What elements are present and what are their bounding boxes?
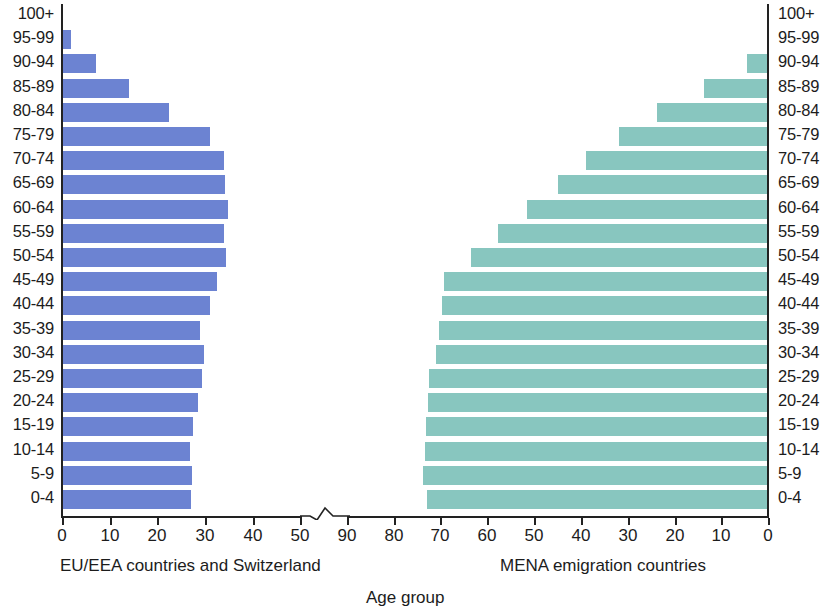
age-label-20-24: 20-24 bbox=[13, 390, 54, 410]
axis-break-icon bbox=[300, 506, 350, 520]
age-label-10-14: 10-14 bbox=[778, 439, 819, 459]
x-axis-right-tick-label: 20 bbox=[655, 526, 695, 546]
bar-right-60-64 bbox=[527, 200, 768, 219]
age-label-0-4: 0-4 bbox=[31, 487, 54, 507]
x-axis-right-tick bbox=[487, 518, 489, 525]
population-pyramid-chart: 0-45-910-1415-1920-2425-2930-3435-3940-4… bbox=[0, 0, 830, 614]
bar-right-45-49 bbox=[444, 272, 768, 291]
age-label-60-64: 60-64 bbox=[778, 197, 819, 217]
bar-left-20-24 bbox=[62, 393, 198, 412]
bar-right-30-34 bbox=[436, 345, 768, 364]
x-axis-left-tick bbox=[300, 518, 302, 525]
bar-left-75-79 bbox=[62, 127, 210, 146]
age-label-95-99: 95-99 bbox=[13, 27, 54, 47]
x-axis-right-tick bbox=[534, 518, 536, 525]
age-label-100plus: 100+ bbox=[18, 3, 54, 23]
bar-left-60-64 bbox=[62, 200, 228, 219]
x-axis-left-tick bbox=[253, 518, 255, 525]
age-label-20-24: 20-24 bbox=[778, 390, 819, 410]
bar-right-50-54 bbox=[471, 248, 768, 267]
x-axis-right-tick-label: 10 bbox=[701, 526, 741, 546]
x-axis-left-tick-label: 20 bbox=[137, 526, 177, 546]
age-label-10-14: 10-14 bbox=[13, 439, 54, 459]
x-axis-left-tick-label: 0 bbox=[42, 526, 82, 546]
right-bars-mena bbox=[428, 0, 768, 516]
axis-title: Age group bbox=[366, 588, 444, 608]
caption-left: EU/EEA countries and Switzerland bbox=[60, 556, 321, 576]
age-label-100plus: 100+ bbox=[778, 3, 814, 23]
age-label-45-49: 45-49 bbox=[13, 269, 54, 289]
y-axis-right bbox=[767, 4, 769, 516]
y-axis-left bbox=[61, 4, 63, 516]
x-axis-right-tick-label: 50 bbox=[514, 526, 554, 546]
x-axis-right-tick bbox=[440, 518, 442, 525]
bar-right-85-89 bbox=[704, 79, 768, 98]
age-label-75-79: 75-79 bbox=[13, 124, 54, 144]
age-label-90-94: 90-94 bbox=[778, 51, 819, 71]
x-axis-right-tick-label: 40 bbox=[561, 526, 601, 546]
bar-left-35-39 bbox=[62, 321, 200, 340]
age-group-labels-right: 0-45-910-1415-1920-2425-2930-3435-3940-4… bbox=[772, 0, 830, 516]
x-axis-right-tick bbox=[628, 518, 630, 525]
x-axis-right-tick-label: 30 bbox=[608, 526, 648, 546]
x-axis-left-tick bbox=[110, 518, 112, 525]
age-label-85-89: 85-89 bbox=[778, 76, 819, 96]
age-label-35-39: 35-39 bbox=[778, 318, 819, 338]
age-group-labels-left: 0-45-910-1415-1920-2425-2930-3435-3940-4… bbox=[0, 0, 58, 516]
bar-left-45-49 bbox=[62, 272, 217, 291]
x-axis-right-tick-label: 70 bbox=[420, 526, 460, 546]
x-axis-right-tick bbox=[721, 518, 723, 525]
x-axis-right-tick-label: 90 bbox=[327, 526, 367, 546]
bar-left-65-69 bbox=[62, 175, 225, 194]
bar-left-85-89 bbox=[62, 79, 129, 98]
bar-right-80-84 bbox=[657, 103, 768, 122]
bar-right-65-69 bbox=[558, 175, 768, 194]
bar-left-95-99 bbox=[62, 30, 71, 49]
bar-left-40-44 bbox=[62, 296, 210, 315]
bar-left-55-59 bbox=[62, 224, 224, 243]
bar-right-35-39 bbox=[439, 321, 768, 340]
bar-right-20-24 bbox=[428, 393, 768, 412]
bar-right-55-59 bbox=[498, 224, 768, 243]
x-axis-right-tick bbox=[675, 518, 677, 525]
x-axis-left-tick bbox=[157, 518, 159, 525]
age-label-50-54: 50-54 bbox=[13, 245, 54, 265]
age-label-15-19: 15-19 bbox=[13, 414, 54, 434]
x-axis-segment-left bbox=[61, 516, 302, 518]
x-axis-segment-right bbox=[347, 516, 769, 518]
x-axis-left-tick bbox=[205, 518, 207, 525]
age-label-80-84: 80-84 bbox=[778, 100, 819, 120]
age-label-55-59: 55-59 bbox=[13, 221, 54, 241]
caption-right: MENA emigration countries bbox=[500, 556, 706, 576]
bar-left-80-84 bbox=[62, 103, 169, 122]
age-label-70-74: 70-74 bbox=[13, 148, 54, 168]
x-axis-right-tick-label: 60 bbox=[467, 526, 507, 546]
x-axis-right-tick bbox=[347, 518, 349, 525]
age-label-0-4: 0-4 bbox=[778, 487, 801, 507]
x-axis-right-tick bbox=[581, 518, 583, 525]
x-axis-left-tick-label: 30 bbox=[185, 526, 225, 546]
bar-left-10-14 bbox=[62, 442, 190, 461]
bar-right-40-44 bbox=[442, 296, 768, 315]
age-label-70-74: 70-74 bbox=[778, 148, 819, 168]
age-label-25-29: 25-29 bbox=[13, 366, 54, 386]
age-label-40-44: 40-44 bbox=[13, 293, 54, 313]
x-axis-left-tick-label: 40 bbox=[233, 526, 273, 546]
age-label-55-59: 55-59 bbox=[778, 221, 819, 241]
age-label-90-94: 90-94 bbox=[13, 51, 54, 71]
age-label-95-99: 95-99 bbox=[778, 27, 819, 47]
age-label-15-19: 15-19 bbox=[778, 414, 819, 434]
bar-right-0-4 bbox=[427, 490, 768, 509]
bar-right-90-94 bbox=[747, 54, 768, 73]
bar-right-70-74 bbox=[586, 151, 768, 170]
age-label-65-69: 65-69 bbox=[778, 172, 819, 192]
bar-left-50-54 bbox=[62, 248, 226, 267]
age-label-50-54: 50-54 bbox=[778, 245, 819, 265]
bar-left-25-29 bbox=[62, 369, 202, 388]
age-label-75-79: 75-79 bbox=[778, 124, 819, 144]
x-axis-right-tick-label: 80 bbox=[374, 526, 414, 546]
age-label-45-49: 45-49 bbox=[778, 269, 819, 289]
bar-left-90-94 bbox=[62, 54, 96, 73]
age-label-5-9: 5-9 bbox=[778, 463, 801, 483]
age-label-60-64: 60-64 bbox=[13, 197, 54, 217]
